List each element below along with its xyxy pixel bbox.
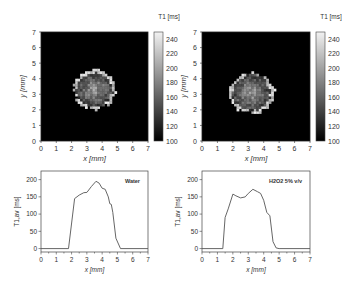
y-tick-label: 100 xyxy=(187,210,198,217)
colorbar-tick-label: 140 xyxy=(328,108,340,115)
line-chart-panel-3: 01234567050100150200x [mm]T1,av [ms]H2O2… xyxy=(174,171,312,274)
x-tick-label: 2 xyxy=(70,256,74,263)
x-tick-label: 2 xyxy=(231,256,235,263)
x-tick-label: 7 xyxy=(146,145,150,152)
x-tick-label: 3 xyxy=(85,256,89,263)
colorbar-tick-label: 120 xyxy=(166,123,178,130)
x-tick-label: 1 xyxy=(216,256,220,263)
x-tick-label: 5 xyxy=(277,145,281,152)
colorbar-tick-label: 160 xyxy=(328,94,340,101)
colorbar-tick-label: 100 xyxy=(328,138,340,145)
line-chart-panel-2: 01234567050100150200x [mm]T1,av [ms]Wate… xyxy=(13,171,150,274)
x-tick-label: 4 xyxy=(262,145,266,152)
colorbar-tick-label: 240 xyxy=(328,36,340,43)
y-tick-label: 2 xyxy=(32,106,36,113)
y-tick-label: 4 xyxy=(32,75,36,82)
y-tick-label: 200 xyxy=(26,176,37,183)
x-tick-label: 2 xyxy=(231,145,235,152)
x-tick-label: 6 xyxy=(131,145,135,152)
x-tick-label: 4 xyxy=(100,145,104,152)
y-tick-label: 150 xyxy=(26,193,37,200)
colorbar-tick-label: 220 xyxy=(328,50,340,57)
y-tick-label: 5 xyxy=(32,60,36,67)
x-tick-label: 5 xyxy=(277,256,281,263)
y-tick-label: 200 xyxy=(187,176,198,183)
colorbar-tick-label: 240 xyxy=(166,36,178,43)
colorbar-tick-label: 140 xyxy=(166,108,178,115)
x-tick-label: 0 xyxy=(200,256,204,263)
colorbar-tick-label: 180 xyxy=(328,79,340,86)
x-tick-label: 0 xyxy=(39,256,43,263)
x-axis-label: x [mm] xyxy=(84,266,105,274)
colorbar-tick-label: 200 xyxy=(328,65,340,72)
x-axis-label: x [mm] xyxy=(245,266,266,274)
heatmap-panel-1: 0123456701234567x [mm]y [mm]100120140160… xyxy=(179,13,342,163)
y-tick-label: 50 xyxy=(30,228,38,235)
y-tick-label: 7 xyxy=(32,29,36,36)
x-axis-label: x [mm] xyxy=(244,154,268,163)
y-tick-label: 4 xyxy=(193,75,197,82)
x-tick-label: 7 xyxy=(308,145,312,152)
y-tick-label: 6 xyxy=(32,44,36,51)
y-tick-label: 100 xyxy=(26,210,37,217)
y-axis-label: y [mm] xyxy=(179,74,188,98)
y-tick-label: 0 xyxy=(32,138,36,145)
y-tick-label: 2 xyxy=(193,106,197,113)
y-axis-label: y [mm] xyxy=(18,74,27,98)
colorbar-tick-label: 200 xyxy=(166,65,178,72)
y-tick-label: 6 xyxy=(193,44,197,51)
x-tick-label: 4 xyxy=(262,256,266,263)
colorbar-title: T1 [ms] xyxy=(158,13,180,21)
heatmap-panel-0: 0123456701234567x [mm]y [mm]100120140160… xyxy=(18,13,180,163)
colorbar-tick-label: 220 xyxy=(166,50,178,57)
colorbar-tick-label: 100 xyxy=(166,138,178,145)
x-tick-label: 3 xyxy=(246,145,250,152)
y-tick-label: 1 xyxy=(193,122,197,129)
y-tick-label: 3 xyxy=(32,91,36,98)
y-tick-label: 1 xyxy=(32,122,36,129)
y-tick-label: 7 xyxy=(193,29,197,36)
x-tick-label: 3 xyxy=(85,145,89,152)
x-axis-label: x [mm] xyxy=(82,154,106,163)
y-tick-label: 3 xyxy=(193,91,197,98)
x-tick-label: 0 xyxy=(200,145,204,152)
x-tick-label: 7 xyxy=(146,256,150,263)
y-axis-label: T1,av [ms] xyxy=(13,196,21,227)
x-tick-label: 6 xyxy=(293,256,297,263)
colorbar-tick-label: 180 xyxy=(166,79,178,86)
y-tick-label: 0 xyxy=(33,245,37,252)
colorbar xyxy=(316,32,325,141)
colorbar-title: T1 [ms] xyxy=(320,13,342,21)
x-tick-label: 0 xyxy=(39,145,43,152)
x-tick-label: 7 xyxy=(308,256,312,263)
x-tick-label: 6 xyxy=(293,145,297,152)
y-tick-label: 0 xyxy=(193,138,197,145)
y-axis-label: T1,av [ms] xyxy=(174,196,182,227)
x-tick-label: 1 xyxy=(54,256,58,263)
x-tick-label: 5 xyxy=(116,256,120,263)
x-tick-label: 5 xyxy=(115,145,119,152)
x-tick-label: 2 xyxy=(70,145,74,152)
figure-canvas: 0123456701234567x [mm]y [mm]100120140160… xyxy=(0,0,353,283)
x-tick-label: 1 xyxy=(215,145,219,152)
y-tick-label: 0 xyxy=(194,245,198,252)
legend-label: H2O2 5% v/v xyxy=(269,178,303,184)
colorbar-tick-label: 160 xyxy=(166,94,178,101)
x-tick-label: 4 xyxy=(100,256,104,263)
x-tick-label: 6 xyxy=(131,256,135,263)
colorbar-tick-label: 120 xyxy=(328,123,340,130)
y-tick-label: 150 xyxy=(187,193,198,200)
x-tick-label: 3 xyxy=(246,256,250,263)
y-tick-label: 5 xyxy=(193,60,197,67)
legend-label: Water xyxy=(125,178,141,184)
y-tick-label: 50 xyxy=(191,228,199,235)
x-tick-label: 1 xyxy=(54,145,58,152)
colorbar xyxy=(154,32,163,141)
